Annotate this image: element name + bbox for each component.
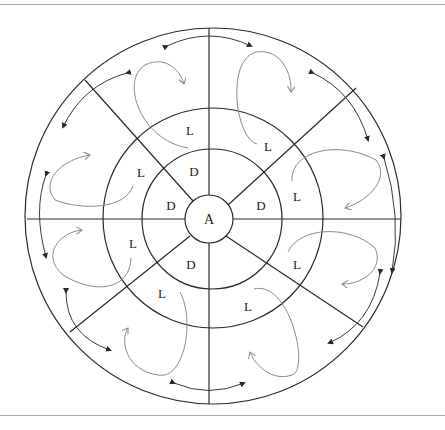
loop-arrow-bottom-right	[250, 288, 299, 376]
rim-arrows	[40, 36, 396, 391]
rim-arrow-top-right	[313, 73, 368, 140]
label-l-left-upper: L	[137, 165, 145, 180]
label-l-right-lower: L	[293, 257, 301, 272]
label-l-right-upper: L	[293, 189, 301, 204]
loop-arrow-left-upper	[50, 155, 133, 206]
label-d-left: D	[166, 198, 175, 213]
concentric-sector-diagram: A D D D D L L L L L L L L	[0, 0, 445, 430]
label-l-top-right: L	[264, 139, 272, 154]
rim-arrow-bottom-right	[329, 273, 380, 343]
loop-arrow-bottom-left	[125, 292, 187, 375]
rim-arrow-right	[384, 158, 396, 272]
label-l-left-lower: L	[129, 236, 137, 251]
label-d-right: D	[256, 198, 265, 213]
label-l-top-left: L	[186, 123, 194, 138]
center-label-a: A	[204, 212, 215, 227]
loop-arrow-left-lower	[53, 230, 131, 287]
rim-arrow-top-left	[63, 73, 127, 127]
loop-arrow-top-left	[134, 62, 188, 148]
label-d-bottom: D	[186, 257, 195, 272]
label-l-bottom-left: L	[158, 286, 166, 301]
loop-arrow-right-lower	[288, 232, 377, 284]
label-l-bottom-right: L	[244, 299, 252, 314]
label-d-top-left: D	[189, 164, 198, 179]
divider-top-right	[228, 88, 356, 205]
rim-arrow-left	[40, 175, 47, 257]
divider-top-left	[85, 80, 193, 201]
loop-arrow-top-right	[237, 52, 291, 144]
